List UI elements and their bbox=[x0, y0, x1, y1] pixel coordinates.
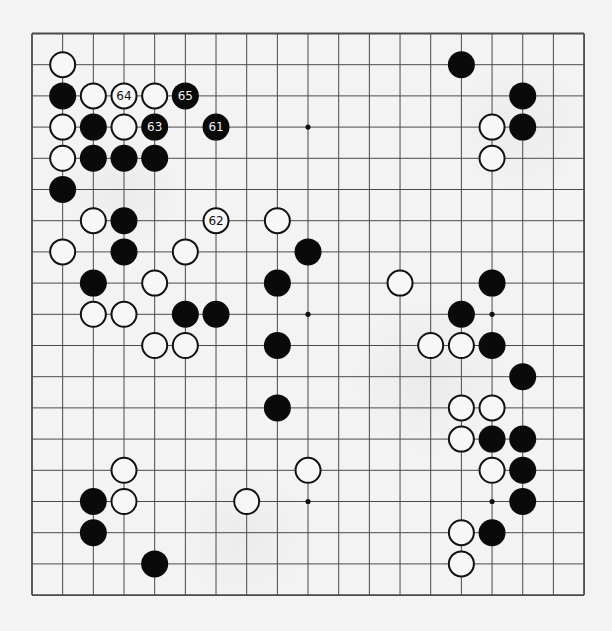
white-stone bbox=[142, 271, 167, 296]
black-stone bbox=[295, 238, 322, 265]
black-stone bbox=[49, 82, 76, 109]
white-stone bbox=[480, 115, 505, 140]
black-stone bbox=[479, 519, 506, 546]
white-stone bbox=[449, 520, 474, 545]
black-stone bbox=[80, 114, 107, 141]
move-number: 65 bbox=[178, 89, 193, 103]
move-number: 62 bbox=[208, 214, 223, 228]
move-number: 64 bbox=[116, 89, 131, 103]
black-stone bbox=[509, 426, 536, 453]
black-stone bbox=[80, 145, 107, 172]
black-stone bbox=[509, 363, 536, 390]
black-stone bbox=[479, 426, 506, 453]
black-stone bbox=[509, 82, 536, 109]
go-board: 6162636465 bbox=[0, 0, 612, 631]
white-stone bbox=[50, 239, 75, 264]
white-stone bbox=[296, 458, 321, 483]
white-stone bbox=[449, 333, 474, 358]
black-stone bbox=[448, 301, 475, 328]
white-stone bbox=[81, 208, 106, 233]
star-point bbox=[305, 125, 310, 130]
white-stone bbox=[173, 333, 198, 358]
white-stone bbox=[50, 115, 75, 140]
white-stone bbox=[112, 302, 137, 327]
white-stone bbox=[142, 83, 167, 108]
white-stone bbox=[112, 115, 137, 140]
white-stone bbox=[449, 551, 474, 576]
white-stone bbox=[418, 333, 443, 358]
black-stone: 63 bbox=[141, 114, 168, 141]
black-stone bbox=[111, 145, 138, 172]
black-stone bbox=[479, 270, 506, 297]
move-number: 61 bbox=[208, 120, 223, 134]
black-stone bbox=[203, 301, 230, 328]
white-stone bbox=[50, 146, 75, 171]
black-stone bbox=[141, 145, 168, 172]
white-stone bbox=[265, 208, 290, 233]
black-stone bbox=[509, 457, 536, 484]
black-stone: 65 bbox=[172, 82, 199, 109]
black-stone bbox=[172, 301, 199, 328]
white-stone bbox=[449, 427, 474, 452]
white-stone bbox=[142, 333, 167, 358]
black-stone bbox=[80, 270, 107, 297]
black-stone bbox=[448, 51, 475, 78]
black-stone bbox=[49, 176, 76, 203]
white-stone bbox=[388, 271, 413, 296]
white-stone: 64 bbox=[112, 83, 137, 108]
star-point bbox=[305, 499, 310, 504]
black-stone bbox=[264, 394, 291, 421]
black-stone bbox=[509, 114, 536, 141]
white-stone bbox=[50, 52, 75, 77]
black-stone bbox=[479, 332, 506, 359]
white-stone bbox=[480, 458, 505, 483]
white-stone bbox=[234, 489, 259, 514]
white-stone bbox=[480, 146, 505, 171]
black-stone bbox=[111, 207, 138, 234]
black-stone bbox=[80, 519, 107, 546]
black-stone bbox=[509, 488, 536, 515]
white-stone bbox=[112, 489, 137, 514]
white-stone bbox=[480, 395, 505, 420]
star-point bbox=[305, 312, 310, 317]
black-stone: 61 bbox=[203, 114, 230, 141]
white-stone bbox=[173, 239, 198, 264]
white-stone: 62 bbox=[204, 208, 229, 233]
black-stone bbox=[111, 238, 138, 265]
star-point bbox=[489, 312, 494, 317]
black-stone bbox=[141, 550, 168, 577]
white-stone bbox=[81, 83, 106, 108]
move-number: 63 bbox=[147, 120, 162, 134]
white-stone bbox=[81, 302, 106, 327]
white-stone bbox=[449, 395, 474, 420]
black-stone bbox=[264, 332, 291, 359]
black-stone bbox=[264, 270, 291, 297]
white-stone bbox=[112, 458, 137, 483]
black-stone bbox=[80, 488, 107, 515]
star-point bbox=[489, 499, 494, 504]
